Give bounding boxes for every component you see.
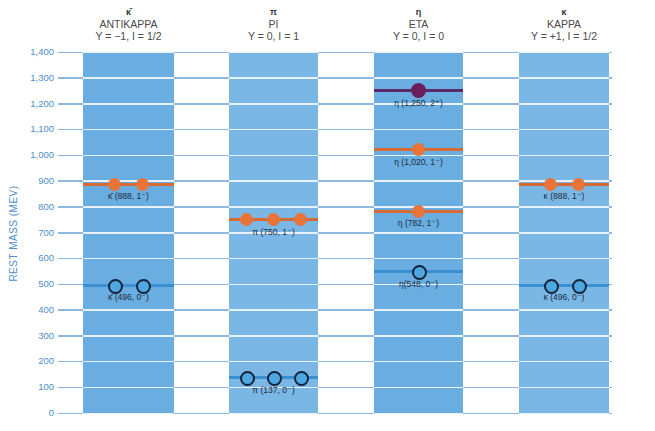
y-tick-label: 300 bbox=[0, 330, 54, 341]
grid-line-inner bbox=[519, 387, 609, 389]
grid-line-inner bbox=[374, 335, 463, 337]
grid-line-inner bbox=[519, 77, 609, 79]
grid-line-inner bbox=[374, 258, 463, 260]
grid-line-inner bbox=[229, 180, 318, 182]
header-symbol: η bbox=[349, 6, 489, 18]
y-tick-label: 400 bbox=[0, 304, 54, 315]
grid-line-inner bbox=[83, 335, 174, 337]
header-quantum: Y = 0, I = 0 bbox=[349, 30, 489, 42]
column-header: κ̄ANTIKAPPAY = −1, I = 1/2 bbox=[59, 6, 199, 42]
grid-line-inner bbox=[519, 335, 609, 337]
grid-line-inner bbox=[519, 232, 609, 234]
grid-line-inner bbox=[374, 77, 463, 79]
grid-line-inner bbox=[83, 77, 174, 79]
y-tick-label: 900 bbox=[0, 175, 54, 186]
grid-line-inner bbox=[229, 413, 318, 415]
grid-line-inner bbox=[374, 52, 463, 54]
grid-line-inner bbox=[229, 206, 318, 208]
y-tick-label: 200 bbox=[0, 355, 54, 366]
y-tick-label: 700 bbox=[0, 227, 54, 238]
y-tick-label: 100 bbox=[0, 381, 54, 392]
header-quantum: Y = −1, I = 1/2 bbox=[59, 30, 199, 42]
particle-dot bbox=[108, 178, 121, 191]
header-name: ETA bbox=[349, 18, 489, 30]
header-name: KAPPA bbox=[494, 18, 634, 30]
energy-level-line bbox=[83, 183, 174, 186]
grid-line-inner bbox=[229, 361, 318, 363]
particle-label: π (750, 1⁻) bbox=[224, 227, 324, 237]
particle-label: κ̄ (496, 0⁻) bbox=[79, 292, 179, 302]
grid-line-inner bbox=[229, 52, 318, 54]
grid-line-inner bbox=[229, 155, 318, 157]
column-header: κKAPPAY = +1, I = 1/2 bbox=[494, 6, 634, 42]
grid-line-inner bbox=[83, 155, 174, 157]
grid-line-inner bbox=[229, 309, 318, 311]
grid-line-inner bbox=[229, 103, 318, 105]
grid-line-inner bbox=[519, 361, 609, 363]
grid-line-inner bbox=[519, 206, 609, 208]
grid-line-inner bbox=[374, 232, 463, 234]
particle-dot bbox=[294, 213, 307, 226]
grid-line-inner bbox=[83, 232, 174, 234]
energy-level-line bbox=[519, 183, 609, 186]
grid-line-inner bbox=[83, 129, 174, 131]
header-name: ANTIKAPPA bbox=[59, 18, 199, 30]
grid-line-inner bbox=[83, 361, 174, 363]
grid-line-inner bbox=[83, 309, 174, 311]
y-tick-label: 1,000 bbox=[0, 149, 54, 160]
energy-level-line bbox=[519, 284, 609, 287]
header-symbol: κ bbox=[494, 6, 634, 18]
particle-label: η (1,250, 2⁺) bbox=[369, 98, 469, 108]
y-tick-label: 1,400 bbox=[0, 46, 54, 57]
grid-line-inner bbox=[374, 361, 463, 363]
column-header: ηETAY = 0, I = 0 bbox=[349, 6, 489, 42]
energy-level-line bbox=[83, 284, 174, 287]
grid-line-inner bbox=[519, 52, 609, 54]
grid-line-inner bbox=[229, 258, 318, 260]
header-symbol: π bbox=[204, 6, 344, 18]
grid-line-inner bbox=[229, 77, 318, 79]
particle-dot bbox=[240, 213, 253, 226]
grid-line-inner bbox=[83, 413, 174, 415]
y-tick-label: 500 bbox=[0, 278, 54, 289]
grid-line-inner bbox=[374, 413, 463, 415]
grid-line-inner bbox=[519, 309, 609, 311]
particle-dot bbox=[572, 178, 585, 191]
grid-line-inner bbox=[374, 129, 463, 131]
particle-label: η(548, 0⁻) bbox=[369, 279, 469, 289]
grid-line-inner bbox=[374, 387, 463, 389]
y-tick-label: 0 bbox=[0, 407, 54, 418]
y-tick-label: 1,100 bbox=[0, 123, 54, 134]
particle-dot bbox=[267, 213, 280, 226]
grid-line-inner bbox=[519, 258, 609, 260]
grid-line-inner bbox=[519, 129, 609, 131]
grid-line-inner bbox=[83, 258, 174, 260]
grid-line-inner bbox=[83, 387, 174, 389]
column-header: πPIY = 0, I = 1 bbox=[204, 6, 344, 42]
header-symbol: κ̄ bbox=[59, 6, 199, 18]
header-quantum: Y = 0, I = 1 bbox=[204, 30, 344, 42]
particle-label: η (1,020, 1⁻) bbox=[369, 157, 469, 167]
grid-line-inner bbox=[83, 206, 174, 208]
particle-dot bbox=[412, 205, 425, 218]
grid-line-inner bbox=[519, 103, 609, 105]
y-tick-label: 800 bbox=[0, 201, 54, 212]
y-tick-label: 1,200 bbox=[0, 98, 54, 109]
grid-line-inner bbox=[374, 180, 463, 182]
grid-line-inner bbox=[83, 52, 174, 54]
particle-dot bbox=[136, 178, 149, 191]
grid-line-inner bbox=[374, 309, 463, 311]
particle-label: κ (496, 0⁻) bbox=[514, 292, 614, 302]
grid-line-inner bbox=[229, 129, 318, 131]
particle-dot bbox=[544, 178, 557, 191]
particle-label: κ (888, 1⁻) bbox=[514, 191, 614, 201]
particle-label: κ̄ (888, 1⁻) bbox=[79, 191, 179, 201]
particle-label: π (137, 0⁻) bbox=[224, 385, 324, 395]
header-name: PI bbox=[204, 18, 344, 30]
grid-line-inner bbox=[229, 284, 318, 286]
grid-line-inner bbox=[519, 155, 609, 157]
header-quantum: Y = +1, I = 1/2 bbox=[494, 30, 634, 42]
grid-line-inner bbox=[83, 103, 174, 105]
particle-label: η (782, 1⁻) bbox=[369, 218, 469, 228]
grid-line-inner bbox=[519, 413, 609, 415]
